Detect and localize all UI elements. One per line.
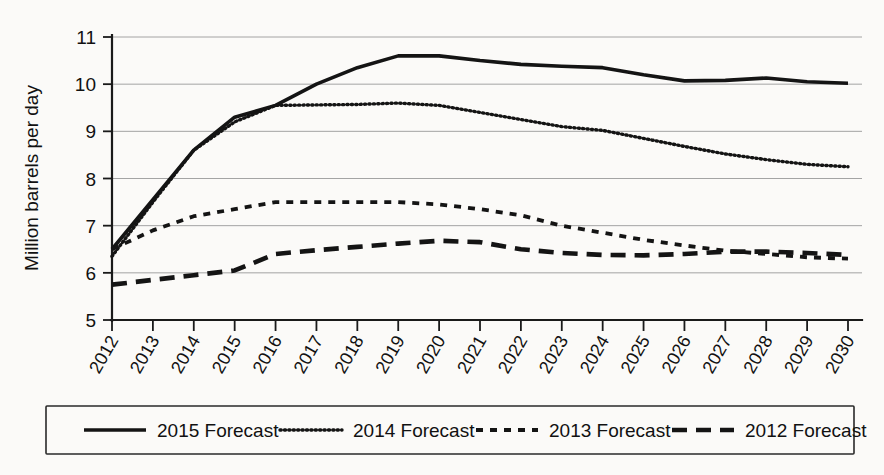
chart-figure: 567891011 201220132014201520162017201820… [0,0,884,475]
legend-label: 2014 Forecast [353,420,475,441]
chart-background [0,0,884,475]
y-axis-title: Million barrels per day [21,85,42,271]
legend-label: 2012 Forecast [745,420,867,441]
y-axis-tick-label: 10 [75,74,96,95]
y-axis-tick-label: 5 [85,310,96,331]
legend-label: 2013 Forecast [549,420,671,441]
y-axis-tick-label: 7 [85,216,96,237]
y-axis-tick-label: 8 [85,169,96,190]
chart-legend: 2015 Forecast2014 Forecast2013 Forecast2… [46,406,867,454]
line-chart: 567891011 201220132014201520162017201820… [0,0,884,475]
legend-label: 2015 Forecast [157,420,279,441]
y-axis-tick-label: 11 [76,27,96,48]
y-axis-tick-label: 6 [85,263,96,284]
y-axis-tick-label: 9 [85,121,96,142]
